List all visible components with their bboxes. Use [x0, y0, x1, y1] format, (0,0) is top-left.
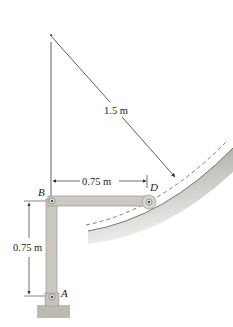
radius-label: 1.5 m [104, 105, 128, 116]
label-B: B [38, 186, 45, 198]
mechanism-diagram: 1.5 m 0.75 m 0.75 m B D A [0, 0, 233, 327]
ground-support [37, 305, 70, 318]
label-A: A [60, 287, 68, 299]
radius-line-upper [51, 36, 110, 102]
center-of-curvature [50, 34, 52, 36]
link-BD [48, 196, 149, 206]
label-D: D [149, 181, 158, 193]
horizontal-dim-label: 0.75 m [82, 176, 111, 187]
radius-line-lower [122, 117, 175, 177]
link-AB [46, 199, 57, 299]
vertical-dim-label: 0.75 m [13, 242, 42, 253]
